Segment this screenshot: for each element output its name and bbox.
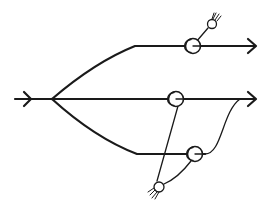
middle-pulley-icon (168, 92, 185, 107)
middle-to-anchor-link (157, 106, 178, 181)
bottom-pulley-icon (187, 147, 204, 162)
bottom-branch-line (52, 99, 205, 154)
top-pulley-icon (185, 39, 201, 54)
diagram-canvas (0, 0, 272, 210)
bottom-to-anchor-link (164, 161, 191, 184)
top-anchor-icon (208, 13, 222, 29)
top-branch-line (52, 46, 255, 99)
bottom-anchor-icon (148, 182, 164, 199)
bottom-merge-line (205, 99, 240, 154)
